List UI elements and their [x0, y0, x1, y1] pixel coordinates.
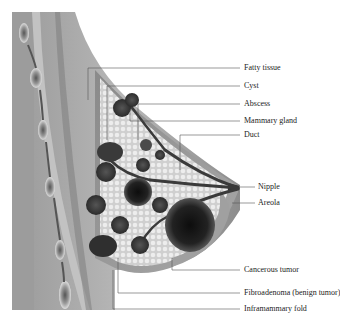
label-duct: Duct	[244, 130, 260, 140]
label-fibroadenoma: Fibroadenoma (benign tumor)	[244, 288, 340, 298]
label-nipple: Nipple	[258, 182, 280, 192]
label-areola: Areola	[258, 198, 280, 208]
cancerous-tumor-large	[165, 198, 215, 252]
label-mammary-gland: Mammary gland	[244, 116, 297, 126]
fibroadenoma	[89, 235, 117, 257]
label-cancerous-tumor: Cancerous tumor	[244, 265, 299, 275]
label-fatty-tissue: Fatty tissue	[244, 63, 281, 73]
cancerous-tumor	[124, 178, 152, 206]
label-abscess: Abscess	[244, 99, 270, 109]
abscess	[140, 139, 152, 151]
label-inframammary-fold: Inframammary fold	[244, 304, 307, 314]
cyst	[97, 142, 123, 162]
label-cyst: Cyst	[244, 81, 259, 91]
